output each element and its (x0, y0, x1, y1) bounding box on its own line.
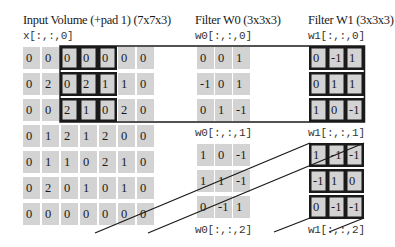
input-cell: 1 (42, 125, 59, 147)
input-cell: 0 (23, 47, 40, 69)
w1-slice2-label: w1[:,:,2] (308, 224, 365, 236)
input-cell-receptive: 2 (80, 73, 97, 95)
input-cell: 0 (137, 125, 154, 147)
input-cell: 0 (99, 203, 116, 225)
w1-cell: -1 (346, 144, 363, 166)
input-cell-receptive: 0 (61, 47, 78, 69)
w0-slice1-label: w0[:,:,1] (195, 127, 252, 139)
input-cell: 1 (118, 73, 135, 95)
input-cell-receptive: 0 (61, 73, 78, 95)
input-cell: 1 (80, 177, 97, 199)
w1-cell: 1 (310, 144, 327, 166)
w1-cell: -1 (328, 144, 345, 166)
w0-cell: 1 (215, 99, 232, 121)
w0-cell: 0 (215, 47, 232, 69)
w1-cell: 1 (310, 99, 327, 121)
w0-cell: 1 (197, 144, 214, 166)
w0-cell: 1 (197, 170, 214, 192)
w1-cell: -1 (328, 196, 345, 218)
input-cell: 0 (80, 203, 97, 225)
input-volume-title: Input Volume (+pad 1) (7x7x3) (23, 13, 171, 28)
input-cell: 0 (23, 99, 40, 121)
w0-cell: -1 (233, 99, 250, 121)
input-cell: 0 (42, 47, 59, 69)
input-cell: 2 (99, 151, 116, 173)
w0-cell: 0 (197, 47, 214, 69)
w1-cell: 0 (310, 73, 327, 95)
w0-cell: -1 (233, 144, 250, 166)
input-cell: 2 (61, 125, 78, 147)
w0-cell: 1 (215, 170, 232, 192)
w0-cell: 1 (233, 47, 250, 69)
input-cell: 0 (137, 177, 154, 199)
w1-cell: 0 (346, 170, 363, 192)
w1-cell: -1 (310, 170, 327, 192)
w1-cell: 1 (346, 47, 363, 69)
input-cell: 0 (80, 151, 97, 173)
w0-cell: 0 (197, 196, 214, 218)
input-cell: 2 (118, 99, 135, 121)
input-cell: 1 (61, 151, 78, 173)
w1-cell: -1 (328, 47, 345, 69)
input-cell-receptive: 0 (80, 47, 97, 69)
input-cell: 0 (137, 203, 154, 225)
w1-cell: -1 (346, 196, 363, 218)
input-cell: 1 (80, 125, 97, 147)
input-cell: 0 (137, 47, 154, 69)
input-slice-label: x[:,:,0] (23, 30, 73, 42)
w0-slice2-label: w0[:,:,2] (195, 224, 252, 236)
input-cell-receptive: 1 (99, 73, 116, 95)
input-cell-receptive: 2 (61, 99, 78, 121)
w0-cell: -1 (197, 73, 214, 95)
w0-cell: 1 (233, 73, 250, 95)
w1-slice0-label: w1[:,:,0] (308, 30, 365, 42)
input-cell: 0 (42, 203, 59, 225)
input-cell-receptive: 0 (99, 47, 116, 69)
w0-cell: 0 (215, 144, 232, 166)
w1-cell: -1 (346, 99, 363, 121)
w0-cell: 0 (215, 73, 232, 95)
input-cell: 0 (23, 177, 40, 199)
filter-w0-title: Filter W0 (3x3x3) (195, 13, 281, 28)
input-cell: 0 (118, 125, 135, 147)
input-cell: 0 (137, 99, 154, 121)
w1-cell: 1 (328, 170, 345, 192)
w1-cell: 1 (328, 73, 345, 95)
input-cell: 0 (42, 99, 59, 121)
input-cell: 1 (118, 151, 135, 173)
input-cell: 2 (99, 125, 116, 147)
input-cell: 0 (61, 177, 78, 199)
input-cell: 0 (118, 47, 135, 69)
w0-cell: 0 (197, 99, 214, 121)
w1-cell: 1 (346, 73, 363, 95)
input-cell-receptive: 0 (99, 99, 116, 121)
w0-cell: -1 (233, 170, 250, 192)
input-cell: 0 (23, 151, 40, 173)
input-cell: 0 (23, 203, 40, 225)
w1-cell: 0 (310, 196, 327, 218)
w0-cell: 1 (233, 196, 250, 218)
input-cell: 2 (42, 177, 59, 199)
input-cell: 1 (118, 177, 135, 199)
input-cell: 0 (23, 125, 40, 147)
input-cell: 0 (118, 203, 135, 225)
input-cell: 0 (23, 73, 40, 95)
input-cell-receptive: 1 (80, 99, 97, 121)
input-cell: 0 (137, 73, 154, 95)
input-cell: 0 (137, 151, 154, 173)
input-cell: 0 (99, 177, 116, 199)
w1-cell: 0 (328, 99, 345, 121)
w1-slice1-label: w1[:,:,1] (308, 127, 365, 139)
input-cell: 1 (42, 151, 59, 173)
w0-cell: -1 (215, 196, 232, 218)
w1-cell: 0 (310, 47, 327, 69)
input-cell: 0 (61, 203, 78, 225)
w0-slice0-label: w0[:,:,0] (195, 30, 252, 42)
filter-w1-title: Filter W1 (3x3x3) (308, 13, 394, 28)
input-cell: 2 (42, 73, 59, 95)
